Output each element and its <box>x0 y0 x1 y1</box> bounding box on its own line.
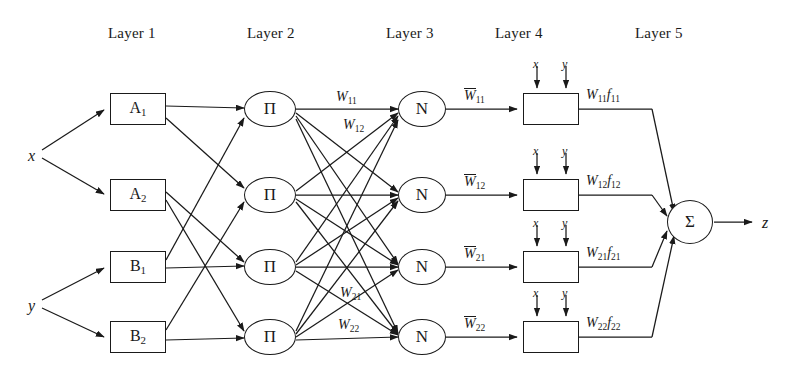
layer4-node-3[interactable] <box>523 251 579 283</box>
layer4-input-y-1: y <box>562 58 567 70</box>
weighted-output-11-fsub: 11 <box>611 94 620 104</box>
layer2-node-pi-3[interactable]: Π <box>244 249 296 285</box>
layer4-input-y-3: y <box>562 217 567 229</box>
layer1-node-b2-base: B <box>130 327 141 344</box>
layer4-input-x-2: x <box>533 145 538 157</box>
layer1-node-a1-sub: 1 <box>141 107 146 119</box>
layer1-node-b2-sub: 2 <box>141 335 146 347</box>
layer1-node-b1-base: B <box>130 257 141 274</box>
weighted-output-11-wbase: W <box>586 87 598 102</box>
layer1-node-b1[interactable]: B1 <box>110 251 166 283</box>
input-y-label: y <box>28 298 35 314</box>
layer2-node-pi-4[interactable]: Π <box>244 319 296 355</box>
layer2-node-pi-2[interactable]: Π <box>244 177 296 213</box>
layer4-input-x-4: x <box>533 287 538 299</box>
layer4-input-x-1: x <box>533 58 538 70</box>
layer4-node-1[interactable] <box>523 93 579 125</box>
weight-w11-base: W <box>336 89 348 104</box>
weight-w11: W11 <box>336 90 357 106</box>
normalized-weight-w11-base: W <box>464 88 476 103</box>
weighted-output-12: W12f12 <box>586 174 621 190</box>
anfis-diagram: Layer 1 Layer 2 Layer 3 Layer 4 Layer 5 … <box>0 0 791 376</box>
normalized-weight-w12-base: W <box>464 174 476 189</box>
layer-title-1: Layer 1 <box>108 26 156 41</box>
layer4-node-4[interactable] <box>523 321 579 353</box>
layer4-input-x-3: x <box>533 217 538 229</box>
weight-w22-base: W <box>338 317 350 332</box>
layer-title-4: Layer 4 <box>495 26 543 41</box>
normalized-weight-w12-sub: 12 <box>476 181 486 191</box>
layer1-node-a2-base: A <box>130 185 142 202</box>
layer3-node-n-3[interactable]: N <box>398 249 446 285</box>
weighted-output-12-wbase: W <box>586 173 598 188</box>
weighted-output-11-wsub: 11 <box>598 94 607 104</box>
weighted-output-12-wsub: 12 <box>598 180 608 190</box>
normalized-weight-w21-sub: 21 <box>476 253 486 263</box>
weight-w21-sub: 21 <box>352 292 362 302</box>
weighted-output-11: W11f11 <box>586 88 620 104</box>
layer4-node-2[interactable] <box>523 179 579 211</box>
layer1-node-a2[interactable]: A2 <box>110 179 166 211</box>
output-z-label: z <box>762 215 768 231</box>
normalized-weight-w11: W11 <box>464 88 485 105</box>
weight-w12: W12 <box>343 118 364 134</box>
weighted-output-21: W21f21 <box>586 246 621 262</box>
weighted-output-22-wbase: W <box>586 315 598 330</box>
weighted-output-12-fsub: 12 <box>611 180 621 190</box>
layer2-node-pi-1[interactable]: Π <box>244 91 296 127</box>
layer-title-5: Layer 5 <box>635 26 683 41</box>
layer-title-3: Layer 3 <box>386 26 434 41</box>
layer3-node-n-2[interactable]: N <box>398 177 446 213</box>
layer1-node-a2-sub: 2 <box>141 193 146 205</box>
layer4-input-y-4: y <box>562 287 567 299</box>
weighted-output-21-wsub: 21 <box>598 252 608 262</box>
normalized-weight-w22-base: W <box>464 316 476 331</box>
weight-w12-sub: 12 <box>355 124 365 134</box>
layer1-node-a1-base: A <box>130 99 142 116</box>
layer1-node-b2[interactable]: B2 <box>110 321 166 353</box>
weighted-output-22-fsub: 22 <box>611 322 621 332</box>
layer1-node-b1-sub: 1 <box>141 265 146 277</box>
weight-w21: W21 <box>340 286 361 302</box>
layer3-node-n-1[interactable]: N <box>398 91 446 127</box>
layer5-node-sigma[interactable]: Σ <box>667 200 713 244</box>
weighted-output-22-wsub: 22 <box>598 322 608 332</box>
normalized-weight-w12: W12 <box>464 174 485 191</box>
layer-title-2: Layer 2 <box>247 26 295 41</box>
input-x-label: x <box>28 148 35 164</box>
layer3-node-n-4[interactable]: N <box>398 319 446 355</box>
normalized-weight-w11-sub: 11 <box>476 95 485 105</box>
layer4-input-y-2: y <box>562 145 567 157</box>
weighted-output-21-fsub: 21 <box>611 252 621 262</box>
weight-w22: W22 <box>338 318 359 334</box>
weight-w22-sub: 22 <box>350 324 360 334</box>
normalized-weight-w21: W21 <box>464 246 485 263</box>
weight-w11-sub: 11 <box>348 96 357 106</box>
weighted-output-22: W22f22 <box>586 316 621 332</box>
weight-w12-base: W <box>343 117 355 132</box>
layer1-node-a1[interactable]: A1 <box>110 93 166 125</box>
normalized-weight-w22-sub: 22 <box>476 323 486 333</box>
normalized-weight-w22: W22 <box>464 316 485 333</box>
weighted-output-21-wbase: W <box>586 245 598 260</box>
normalized-weight-w21-base: W <box>464 246 476 261</box>
weight-w21-base: W <box>340 285 352 300</box>
